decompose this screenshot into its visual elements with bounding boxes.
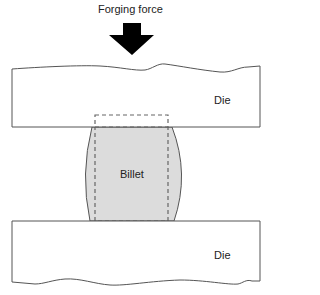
top-die-label: Die: [214, 94, 231, 106]
down-arrow-icon: [109, 23, 154, 55]
forging-force-label: Forging force: [98, 3, 163, 15]
bottom-die-label: Die: [214, 249, 231, 261]
billet-label: Billet: [120, 168, 144, 180]
